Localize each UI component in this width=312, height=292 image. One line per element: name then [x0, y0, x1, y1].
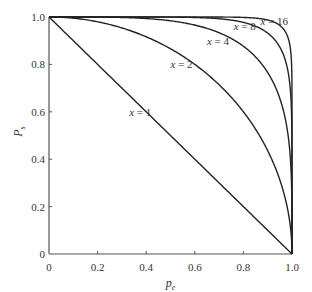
y-axis-title: Ps — [11, 126, 27, 137]
chart: 00.20.40.60.81.000.20.40.60.81.0pePs x =… — [0, 0, 312, 292]
x-tick-label: 0.4 — [139, 261, 153, 273]
curves — [49, 17, 292, 254]
x-axis-title: pe — [165, 276, 176, 292]
curve-label-x-1: x = 1 — [128, 106, 151, 118]
x-tick-label: 0.8 — [237, 261, 251, 273]
axes: 00.20.40.60.81.000.20.40.60.81.0pePs — [11, 11, 299, 292]
x-tick-label: 0.6 — [188, 261, 202, 273]
y-tick-label: 0.6 — [31, 106, 45, 118]
curve-label-x-4: x = 4 — [206, 35, 230, 47]
curve-x-1 — [49, 17, 292, 254]
y-tick-label: 1.0 — [31, 11, 45, 23]
y-tick-label: 0.2 — [31, 201, 45, 213]
x-tick-label: 0 — [46, 261, 52, 273]
y-tick-label: 0.4 — [31, 153, 45, 165]
x-tick-label: 0.2 — [91, 261, 105, 273]
curve-label-x-16: x = 16 — [259, 15, 288, 27]
curve-label-x-2: x = 2 — [170, 58, 193, 70]
curve-label-x-8: x = 8 — [233, 20, 257, 32]
x-tick-label: 1.0 — [285, 261, 299, 273]
y-tick-label: 0.8 — [31, 58, 45, 70]
y-tick-label: 0 — [40, 248, 46, 260]
